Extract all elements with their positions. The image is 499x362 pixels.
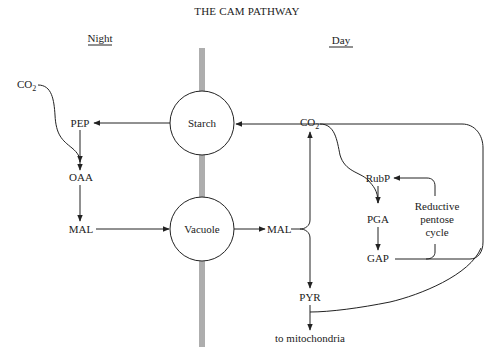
day-mal-label: MAL — [267, 223, 292, 235]
cycle-label-line3: cycle — [425, 226, 448, 238]
starch-compartment: Starch — [170, 91, 234, 155]
diagram-title: THE CAM PATHWAY — [194, 5, 299, 17]
mitochondria-label: to mitochondria — [275, 332, 345, 344]
rubp-label: RubP — [366, 172, 390, 184]
cam-pathway-diagram: THE CAM PATHWAY Night Day Starch Vacuole… — [0, 0, 499, 362]
vacuole-compartment: Vacuole — [170, 197, 234, 261]
oaa-label: OAA — [69, 171, 93, 183]
pga-label: PGA — [367, 213, 389, 225]
cycle-label-line1: Reductive — [415, 200, 460, 212]
cycle-to-rubp-arrow — [394, 178, 435, 196]
vacuole-label: Vacuole — [184, 223, 220, 235]
pyr-label: PYR — [299, 291, 321, 303]
section-night-heading: Night — [87, 32, 112, 44]
pep-label: PEP — [71, 117, 90, 129]
mal-to-co2-arrow — [291, 132, 310, 229]
cycle-label-line2: pentose — [420, 213, 454, 225]
day-co2-to-pga-arrow — [320, 124, 378, 203]
gap-to-starch-arrow — [236, 124, 483, 259]
loop-to-pyr-curve — [310, 248, 481, 312]
night-co2-label: CO2 — [17, 78, 36, 93]
mal-to-pyr-arrow — [300, 229, 310, 288]
gap-label: GAP — [367, 252, 389, 264]
starch-label: Starch — [188, 117, 217, 129]
gap-to-cycle-line — [426, 244, 435, 259]
night-mal-label: MAL — [69, 223, 94, 235]
section-day-heading: Day — [332, 34, 351, 46]
